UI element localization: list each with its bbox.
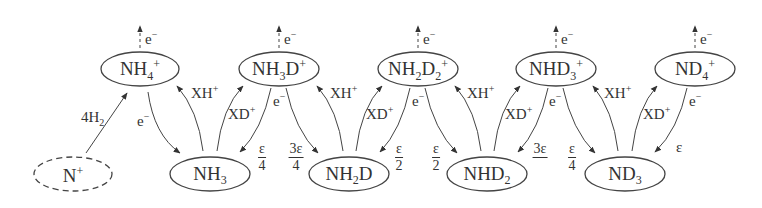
xh-plus-label: XH+ bbox=[467, 84, 494, 101]
branching-fraction: ε4 bbox=[258, 142, 266, 173]
branching-fraction: ε4 bbox=[568, 142, 576, 173]
xh-plus-label: XH+ bbox=[191, 84, 218, 101]
node-n-plus: N+ bbox=[63, 165, 84, 185]
node-nh2d2-plus: NH2D2+ bbox=[388, 58, 448, 82]
xd-plus-label: XD+ bbox=[643, 105, 670, 122]
electron-escape-label: e− bbox=[700, 30, 712, 47]
electron-recombination-label: e− bbox=[549, 92, 561, 109]
branching-fraction: ε2 bbox=[432, 142, 440, 173]
branching-fraction: ε2 bbox=[395, 142, 403, 173]
xh-plus-label: XH+ bbox=[604, 84, 631, 101]
node-nh2d: NH2D bbox=[325, 164, 372, 187]
node-nhd2: NHD2 bbox=[463, 164, 510, 187]
network-graphics bbox=[0, 0, 762, 208]
xd-plus-label: XD+ bbox=[366, 105, 393, 122]
node-nd4-plus: ND4+ bbox=[675, 58, 715, 82]
electron-escape-label: e− bbox=[561, 30, 573, 47]
electron-escape-label: e− bbox=[284, 30, 296, 47]
electron-recombination-label: e− bbox=[689, 92, 701, 109]
electron-recombination-label: e− bbox=[412, 92, 424, 109]
branching-fraction: 3ε bbox=[533, 142, 548, 158]
xd-plus-label: XD+ bbox=[505, 105, 532, 122]
node-nh3: NH3 bbox=[193, 164, 226, 187]
node-nd3: ND3 bbox=[608, 164, 641, 187]
electron-escape-label: e− bbox=[423, 30, 435, 47]
electron-escape-label: e− bbox=[145, 30, 157, 47]
final-branch-epsilon: ε bbox=[676, 140, 682, 155]
xh-plus-label: XH+ bbox=[330, 84, 357, 101]
h2-label: 4H2 bbox=[81, 110, 104, 128]
electron-recombination-label: e− bbox=[137, 112, 149, 129]
node-nh3d-plus: NH3D+ bbox=[252, 58, 306, 82]
node-nh4-plus: NH4+ bbox=[120, 58, 160, 82]
node-nhd3-plus: NHD3+ bbox=[529, 58, 583, 82]
electron-recombination-label: e− bbox=[273, 92, 285, 109]
xd-plus-label: XD+ bbox=[228, 105, 255, 122]
branching-fraction: 3ε4 bbox=[289, 142, 304, 173]
